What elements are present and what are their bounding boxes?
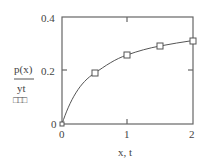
x-tick-label-2: 2 xyxy=(189,129,195,140)
x-tick-label-0: 0 xyxy=(59,129,65,140)
x-axis-label: x, t xyxy=(118,147,132,158)
y-axis-label-numerator: p(x) xyxy=(14,64,32,75)
y-tick-label-0.4: 0.4 xyxy=(41,13,55,24)
y-tick-label-0: 0 xyxy=(51,119,57,130)
plot-frame xyxy=(62,17,193,124)
plot-canvas xyxy=(0,0,204,164)
y-axis-label-placeholder[interactable]: □□□ xyxy=(13,95,26,106)
y-tick-label-0.2: 0.2 xyxy=(41,66,55,77)
yt-markers xyxy=(60,38,196,126)
x-tick-label-1: 1 xyxy=(124,129,130,140)
y-axis-label-denominator: yt xyxy=(17,83,26,94)
